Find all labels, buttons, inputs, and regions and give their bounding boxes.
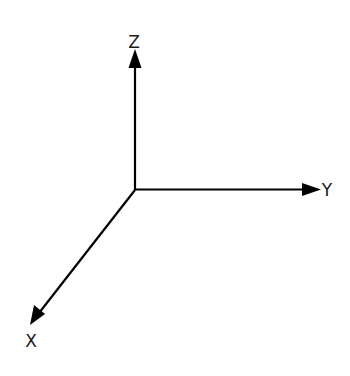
- z-axis: Z: [128, 32, 141, 190]
- y-axis-arrowhead-icon: [302, 183, 321, 196]
- coordinate-axes-diagram: Z Y X: [0, 0, 350, 376]
- x-axis-label: X: [25, 331, 37, 351]
- y-axis: Y: [135, 180, 333, 200]
- x-axis-line: [39, 190, 135, 313]
- x-axis: X: [25, 190, 135, 351]
- y-axis-label: Y: [321, 180, 333, 200]
- z-axis-label: Z: [128, 32, 140, 52]
